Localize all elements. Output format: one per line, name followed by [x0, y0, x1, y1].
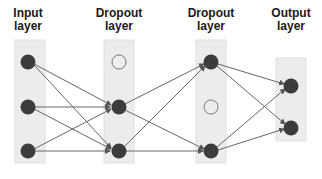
network-diagram: [0, 0, 322, 179]
dropout1-node-3: [112, 144, 127, 159]
edges-dropout2-to-output: [217, 64, 285, 150]
output-node-1: [284, 79, 299, 94]
edges-dropout1-to-dropout2: [124, 64, 205, 151]
input-node-2: [21, 100, 36, 115]
dropout1-node-2: [112, 100, 127, 115]
dropout2-dropped-node: [204, 100, 218, 114]
output-node-2: [284, 121, 299, 136]
dropout2-node-3: [204, 144, 219, 159]
input-node-1: [21, 55, 36, 70]
dropout1-dropped-node: [112, 55, 126, 69]
input-node-3: [21, 144, 36, 159]
edges-input-to-dropout1: [34, 64, 111, 151]
dropout2-node-1: [204, 55, 219, 70]
